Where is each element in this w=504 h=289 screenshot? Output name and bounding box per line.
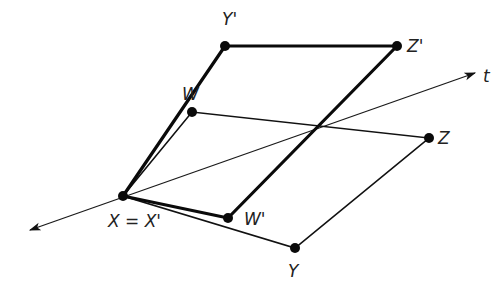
point-z bbox=[424, 133, 434, 143]
label-z: Z bbox=[437, 128, 450, 148]
shear-transformation-diagram: X = X' Y Z W Y' Z' W' t bbox=[0, 0, 504, 289]
vertex-points bbox=[118, 41, 434, 253]
label-t-axis: t bbox=[483, 66, 491, 86]
point-y-prime bbox=[220, 41, 230, 51]
point-x bbox=[118, 191, 128, 201]
label-y: Y bbox=[288, 261, 300, 281]
transformed-parallelogram bbox=[123, 46, 397, 218]
label-z-prime: Z' bbox=[406, 36, 423, 56]
point-y bbox=[290, 243, 300, 253]
t-axis-line bbox=[30, 73, 475, 230]
point-w bbox=[187, 107, 197, 117]
point-w-prime bbox=[223, 213, 233, 223]
original-parallelogram bbox=[123, 112, 429, 248]
label-x: X = X' bbox=[107, 211, 161, 231]
point-z-prime bbox=[392, 41, 402, 51]
label-w-prime: W' bbox=[244, 209, 265, 229]
label-w: W bbox=[182, 84, 200, 104]
label-y-prime: Y' bbox=[222, 9, 237, 29]
